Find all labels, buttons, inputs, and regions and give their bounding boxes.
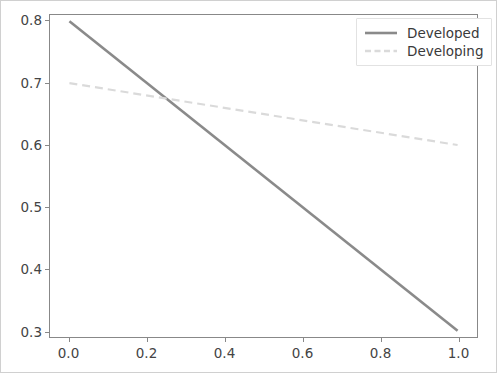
y-tick-label: 0.6: [5, 137, 42, 153]
x-tick-label: 0.2: [136, 345, 157, 361]
y-axis-tick-labels: 0.30.40.50.60.70.8: [1, 1, 42, 373]
x-tick-label: 0.8: [370, 345, 391, 361]
x-tick-mark: [303, 338, 304, 342]
legend-line-sample-developed: [364, 27, 398, 39]
y-tick-mark: [45, 145, 49, 146]
x-tick-mark: [381, 338, 382, 342]
y-tick-mark: [45, 269, 49, 270]
legend-label-developed: Developed: [407, 25, 479, 41]
chart-legend: Developed Developing: [356, 18, 492, 66]
y-tick-mark: [45, 20, 49, 21]
y-tick-label: 0.4: [5, 261, 42, 277]
y-tick-label: 0.8: [5, 12, 42, 28]
x-tick-mark: [225, 338, 226, 342]
y-tick-mark: [45, 207, 49, 208]
series-line-developing: [69, 83, 457, 145]
y-tick-label: 0.5: [5, 199, 42, 215]
chart-figure: 0.30.40.50.60.70.8 0.00.20.40.60.81.0 De…: [0, 0, 497, 373]
y-tick-mark: [45, 83, 49, 84]
y-tick-mark: [45, 332, 49, 333]
y-tick-label: 0.7: [5, 75, 42, 91]
series-line-developed: [69, 21, 457, 331]
x-tick-label: 0.0: [58, 345, 79, 361]
legend-line-sample-developing: [364, 45, 398, 57]
legend-entry-developing[interactable]: Developing: [364, 42, 483, 60]
legend-entry-developed[interactable]: Developed: [364, 24, 483, 42]
legend-label-developing: Developing: [407, 43, 483, 59]
x-tick-mark: [69, 338, 70, 342]
x-tick-label: 1.0: [448, 345, 469, 361]
x-tick-mark: [459, 338, 460, 342]
y-tick-label: 0.3: [5, 324, 42, 340]
x-tick-mark: [147, 338, 148, 342]
x-axis-tick-labels: 0.00.20.40.60.81.0: [1, 345, 497, 367]
x-tick-label: 0.4: [214, 345, 235, 361]
x-tick-label: 0.6: [292, 345, 313, 361]
